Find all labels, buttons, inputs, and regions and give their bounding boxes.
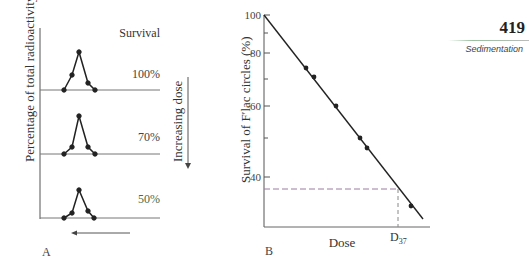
panel-b-ylabel: Survival of F′lac circles (%) (238, 36, 253, 183)
survival-header: Survival (119, 26, 160, 40)
panel-b-yticks (264, 15, 270, 177)
survival-100-label: 100% (132, 67, 160, 81)
panel-b-chart: 100 80 60 40 Survival of F′lac circles (… (230, 0, 440, 272)
ytick-100: 100 (245, 9, 262, 21)
sedimentation-arrow-head-icon (71, 231, 77, 236)
profile-100 (62, 50, 97, 92)
panel-b-label: B (265, 244, 273, 258)
dose-arrow-label: Increasing dose (170, 81, 185, 162)
panel-b-xlabel: Dose (329, 235, 356, 250)
dose-arrow-head-icon (185, 163, 191, 169)
profile-70 (62, 114, 97, 156)
survival-70-label: 70% (138, 130, 160, 144)
d37-label: D37 (390, 230, 407, 246)
panel-a-label: A (42, 245, 51, 259)
survival-fit-line (264, 15, 423, 219)
section-title: Sedimentation (465, 44, 523, 54)
profile-50 (62, 188, 96, 220)
panel-a-ylabel: Percentage of total radioactivity (22, 0, 37, 162)
survival-50-label: 50% (138, 192, 160, 206)
panel-a-chart: Percentage of total radioactivity Surviv… (0, 0, 230, 272)
page-number: 419 (500, 18, 526, 38)
header-rule (448, 40, 529, 41)
